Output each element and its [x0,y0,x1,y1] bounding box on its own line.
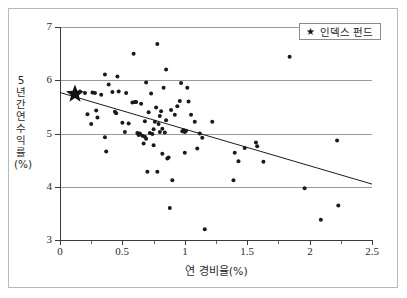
data-point [157,122,161,126]
data-point [103,72,107,76]
data-point [319,218,323,222]
data-point [288,55,292,59]
data-point [152,143,156,147]
data-point [124,91,128,95]
data-point [200,136,204,140]
data-point [145,170,149,174]
data-point [159,109,163,113]
data-point [144,137,148,141]
data-point [160,152,164,156]
trendline [60,92,372,184]
data-point [178,99,182,103]
legend[interactable]: ★ 인덱스 펀드 [299,23,381,40]
data-point [303,186,307,190]
data-point [123,130,127,134]
data-point [169,108,173,112]
star-icon: ★ [306,27,315,37]
data-point [95,116,99,120]
x-axis-title: 연 경비율(%) [60,262,373,278]
data-point [144,80,148,84]
data-point [261,160,265,164]
data-point [85,112,89,116]
data-point [89,122,93,126]
data-point [117,89,121,93]
data-point [336,203,340,207]
data-point [198,132,202,136]
data-point [335,138,339,142]
data-point [155,42,159,46]
data-point [143,119,147,123]
data-point [158,114,162,118]
data-point [243,146,247,150]
data-point [236,159,240,163]
data-point [154,105,158,109]
data-point [132,52,136,56]
chart-figure: 34567 00.511.522.5 ★ 인덱스 펀드 5년간 연 수익률(%)… [0,0,407,298]
data-point [187,100,191,104]
data-point [149,92,153,96]
data-point [158,130,162,134]
data-point [134,100,138,104]
data-point [255,144,259,148]
data-point [168,206,172,210]
data-point [99,93,103,97]
data-point [94,109,98,113]
data-point [153,120,157,124]
data-point [115,75,119,79]
data-point [170,178,174,182]
data-point [185,86,189,90]
data-point [155,170,159,174]
data-point [254,141,258,145]
data-point [139,102,143,106]
y-axis-title: 5년간 연 수익률(%) [14,74,28,170]
data-point [120,121,124,125]
data-point [78,89,82,93]
data-point [175,104,179,108]
data-point [164,118,168,122]
data-point [163,130,167,134]
data-point [179,81,183,85]
data-point [150,132,154,136]
data-point [183,151,187,155]
data-point [164,68,168,72]
data-point [160,127,164,131]
data-point [193,120,197,124]
data-point [162,86,166,90]
data-point [233,151,237,155]
data-point [231,178,235,182]
data-point [195,146,199,150]
data-point [203,227,207,231]
data-point [167,155,171,159]
data-point [189,113,193,117]
data-point [142,142,146,146]
data-point [83,91,87,95]
data-point [173,113,177,117]
data-point [147,110,151,114]
data-point [107,83,111,87]
data-point [103,135,107,139]
data-point [104,150,108,154]
data-point [93,91,97,95]
data-point [210,120,214,124]
data-point [127,121,131,125]
data-marks-layer [0,0,407,298]
data-point [110,90,114,94]
data-point [184,129,188,133]
legend-label-index-fund: 인덱스 펀드 [320,24,373,39]
data-point [114,111,118,115]
data-point [152,127,156,131]
